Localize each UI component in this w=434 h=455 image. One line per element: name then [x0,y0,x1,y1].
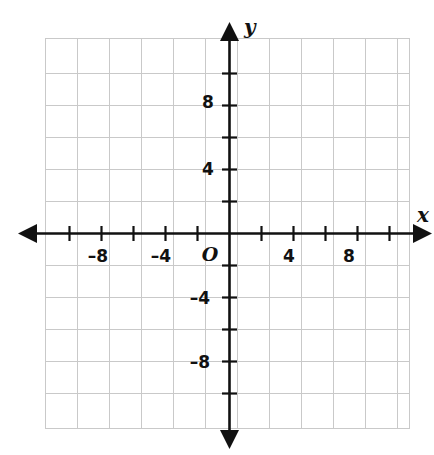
x-tick-label-4: 4 [283,246,295,266]
x-axis-label: x [416,203,430,227]
y-tick-label-4: 4 [202,159,214,179]
x-tick-label-8: 8 [343,246,355,266]
x-tick-label-neg8: –8 [88,246,108,266]
origin-label: O [202,243,219,265]
x-tick-label-neg4: –4 [151,246,172,266]
coordinate-plane-figure: –8 –4 4 8 8 4 –4 –8 O y x [0,0,434,455]
figure-background [0,0,434,455]
y-tick-label-8: 8 [202,92,214,112]
y-axis-label: y [243,15,257,39]
coordinate-plane-svg: –8 –4 4 8 8 4 –4 –8 O y x [0,0,434,455]
y-tick-label-neg4: –4 [190,288,211,308]
y-tick-label-neg8: –8 [190,352,210,372]
